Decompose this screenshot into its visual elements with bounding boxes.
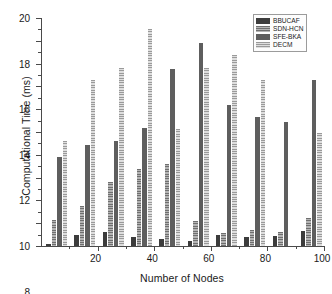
- bar: [261, 80, 266, 246]
- y-axis-minor-tick: [38, 235, 41, 236]
- bar: [74, 235, 79, 246]
- y-axis-line: [41, 18, 42, 246]
- y-axis-tick: 4: [36, 200, 41, 201]
- legend-swatch-icon: [256, 42, 270, 49]
- computational-time-bar-chart: Computational Time (ms) 0246810121416182…: [0, 0, 332, 294]
- bar: [199, 43, 204, 246]
- legend-item-label: BBUCAF: [273, 17, 300, 25]
- x-axis-tick: [154, 246, 155, 251]
- bar: [137, 169, 142, 246]
- y-axis-tick: 0: [36, 246, 41, 247]
- bar: [255, 117, 260, 246]
- plot-area: 02468101214161820 20406080100: [41, 18, 324, 246]
- x-axis-tick-label: 20: [90, 253, 101, 264]
- y-axis-tick-label: 10: [19, 241, 30, 252]
- bar: [176, 129, 181, 246]
- bar: [114, 141, 119, 246]
- bar: [273, 236, 278, 246]
- y-axis-minor-tick: [38, 52, 41, 53]
- bar: [244, 237, 249, 246]
- legend-item-label: SFE-BKA: [273, 33, 301, 41]
- x-axis-minor-tick: [296, 246, 297, 249]
- bar: [131, 237, 136, 246]
- x-axis-tick: [324, 246, 325, 251]
- bar: [165, 164, 170, 246]
- legend-item-label: SDN-HCN: [273, 25, 303, 33]
- legend: BBUCAFSDN-HCNSFE-BKADECM: [253, 14, 307, 52]
- bar: [142, 128, 147, 246]
- legend-item: SDN-HCN: [256, 25, 303, 33]
- legend-swatch-icon: [256, 26, 270, 33]
- x-axis-minor-tick: [239, 246, 240, 249]
- y-axis-tick-label: 14: [19, 149, 30, 160]
- y-axis-tick-label: 16: [19, 104, 30, 115]
- bar: [103, 232, 108, 246]
- x-axis-tick: [98, 246, 99, 251]
- bar: [52, 220, 57, 246]
- x-axis-minor-tick: [69, 246, 70, 249]
- bar: [108, 182, 113, 246]
- y-axis-tick-label: 8: [24, 286, 30, 294]
- bar: [170, 69, 175, 246]
- bar: [278, 232, 283, 246]
- x-axis-title: Number of Nodes: [38, 272, 326, 284]
- bar: [250, 230, 255, 246]
- legend-item: DECM: [256, 41, 303, 49]
- y-axis-minor-tick: [38, 143, 41, 144]
- bar: [227, 105, 232, 246]
- y-axis-tick-label: 20: [19, 13, 30, 24]
- bar: [85, 145, 90, 246]
- bar: [312, 80, 317, 246]
- legend-item: BBUCAF: [256, 17, 303, 25]
- x-axis-tick: [211, 246, 212, 251]
- legend-item-label: DECM: [273, 41, 292, 49]
- y-axis-minor-tick: [38, 189, 41, 190]
- bar: [306, 218, 311, 246]
- bar: [232, 55, 237, 246]
- x-axis-tick-label: 100: [314, 253, 331, 264]
- bar: [159, 239, 164, 246]
- bar: [193, 221, 198, 246]
- x-axis-tick-label: 40: [147, 253, 158, 264]
- y-axis-tick: 20: [36, 18, 41, 19]
- x-axis-minor-tick: [126, 246, 127, 249]
- x-axis-tick: [267, 246, 268, 251]
- y-axis-tick: 18: [36, 41, 41, 42]
- y-axis-tick: 10: [36, 132, 41, 133]
- bar: [46, 244, 51, 246]
- y-axis-minor-tick: [38, 29, 41, 30]
- y-axis-tick-label: 12: [19, 195, 30, 206]
- bar: [80, 206, 85, 246]
- bar: [284, 122, 289, 246]
- legend-item: SFE-BKA: [256, 33, 303, 41]
- legend-swatch-icon: [256, 34, 270, 41]
- y-axis-minor-tick: [38, 166, 41, 167]
- y-axis-minor-tick: [38, 212, 41, 213]
- bar: [63, 141, 68, 246]
- y-axis-tick: 2: [36, 223, 41, 224]
- y-axis-minor-tick: [38, 121, 41, 122]
- bar: [301, 231, 306, 246]
- bar: [148, 29, 153, 246]
- bar: [91, 80, 96, 246]
- bar: [119, 68, 124, 246]
- x-axis-minor-tick: [183, 246, 184, 249]
- x-axis-tick-label: 80: [260, 253, 271, 264]
- bar: [188, 241, 193, 246]
- y-axis-minor-tick: [38, 98, 41, 99]
- x-axis-tick-label: 60: [203, 253, 214, 264]
- y-axis-tick: 16: [36, 64, 41, 65]
- y-axis-tick: 14: [36, 86, 41, 87]
- y-axis-tick: 8: [36, 155, 41, 156]
- y-axis-tick: 6: [36, 178, 41, 179]
- bar: [216, 235, 221, 246]
- bar: [221, 233, 226, 246]
- bar: [317, 133, 322, 246]
- bar: [204, 68, 209, 246]
- y-axis-minor-tick: [38, 75, 41, 76]
- y-axis-tick: 12: [36, 109, 41, 110]
- legend-swatch-icon: [256, 18, 270, 25]
- bar: [57, 157, 62, 246]
- y-axis-tick-label: 18: [19, 58, 30, 69]
